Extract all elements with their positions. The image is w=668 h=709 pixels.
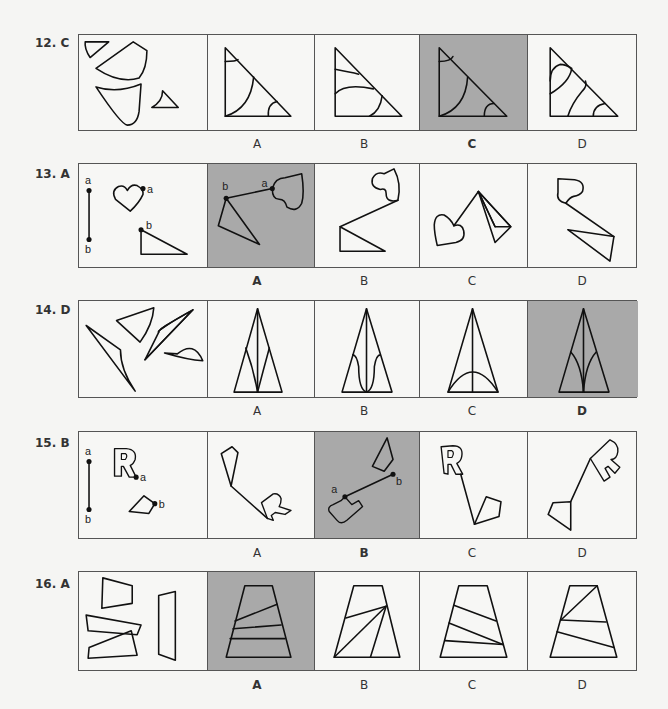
spike-triangle-figure [208,301,314,397]
q14-pieces-figure [79,301,207,397]
trapezoid-slices-figure [420,572,527,670]
question-number: 15. [35,436,56,450]
heart-triangle-figure [315,164,419,267]
point-label-b: b [396,475,402,487]
r-pentagon-figure: a b [315,432,419,538]
option-label-c: C [452,546,492,560]
q12-option-d[interactable] [527,35,638,130]
point-label-a: a [85,445,91,457]
q14-option-c[interactable] [419,301,527,397]
option-label-b: B [344,404,384,418]
question-14-row [78,300,637,398]
trapezoid-slices-figure [315,572,419,670]
question-number: 12. [35,36,56,50]
option-label-c: C [452,404,492,418]
question-number: 16. [35,577,56,591]
question-16-label: 16. A [35,577,70,591]
answer-key: A [60,577,69,591]
q13-option-a[interactable]: b a [207,164,314,267]
point-label-b: b [85,243,91,255]
q13-option-c[interactable] [419,164,527,267]
point-label-b: b [85,513,91,525]
question-15-label: 15. B [35,436,70,450]
q12-option-b[interactable] [314,35,419,130]
spike-triangle-figure [315,301,419,397]
triangle-arcs-figure [420,35,527,130]
option-label-d: D [562,137,602,151]
spike-triangle-figure [528,301,638,397]
point-label-a: a [140,471,146,483]
r-pentagon-figure [420,432,527,538]
q16-pieces-figure [79,572,207,670]
q12-option-a[interactable] [207,35,314,130]
option-label-b: B [344,678,384,692]
point-label-b: b [222,180,228,192]
point-label-a: a [85,174,91,186]
answer-key: D [60,303,70,317]
triangle-arcs-figure [315,35,419,130]
option-label-c: C [452,678,492,692]
q16-option-d[interactable] [527,572,638,670]
triangle-arcs-figure [208,35,314,130]
q15-option-b[interactable]: a b [314,432,419,538]
spike-triangle-figure [420,301,527,397]
option-label-b: B [344,137,384,151]
option-label-a-correct: A [237,678,277,692]
question-number: 13. [35,167,56,181]
question-13-row: a b a b b a [78,163,637,268]
point-label-a: a [261,177,267,189]
point-label-b: b [159,498,165,510]
option-label-d: D [562,274,602,288]
point-label-a: a [331,483,337,495]
q15-option-d[interactable] [527,432,638,538]
q15-pieces-figure: a b a b [79,432,207,538]
q16-option-a[interactable] [207,572,314,670]
question-15-row: a b a b a b [78,431,637,539]
option-label-d: D [562,678,602,692]
q14-option-b[interactable] [314,301,419,397]
option-label-a-correct: A [237,274,277,288]
option-label-c-correct: C [452,137,492,151]
r-pentagon-figure [528,432,638,538]
option-label-d-correct: D [562,404,602,418]
option-label-b-correct: B [344,546,384,560]
q13-pieces: a b a b [79,164,207,267]
question-number: 14. [35,303,56,317]
trapezoid-slices-figure [208,572,314,670]
q13-pieces-figure: a b a b [79,164,207,267]
heart-triangle-figure [420,164,527,267]
option-label-a: A [237,404,277,418]
q12-option-c[interactable] [419,35,527,130]
triangle-arcs-figure [528,35,638,130]
q15-option-a[interactable] [207,432,314,538]
q12-pieces [79,35,207,130]
question-12-label: 12. C [35,36,69,50]
r-pentagon-figure [208,432,314,538]
q15-option-c[interactable] [419,432,527,538]
answer-key: B [60,436,69,450]
option-label-b: B [344,274,384,288]
q16-option-b[interactable] [314,572,419,670]
heart-triangle-figure: b a [208,164,314,267]
q12-pieces-figure [79,35,207,130]
q14-option-d[interactable] [527,301,638,397]
question-12-row [78,34,637,131]
option-label-a: A [237,546,277,560]
answer-key: C [60,36,69,50]
q16-pieces [79,572,207,670]
question-13-label: 13. A [35,167,70,181]
q13-option-b[interactable] [314,164,419,267]
trapezoid-slices-figure [528,572,638,670]
heart-triangle-figure [528,164,638,267]
q15-pieces: a b a b [79,432,207,538]
q14-option-a[interactable] [207,301,314,397]
point-label-b: b [146,219,152,231]
question-14-label: 14. D [35,303,70,317]
question-16-row [78,571,637,671]
q13-option-d[interactable] [527,164,638,267]
answer-key: A [60,167,69,181]
option-label-a: A [237,137,277,151]
point-label-a: a [147,183,153,195]
q16-option-c[interactable] [419,572,527,670]
option-label-c: C [452,274,492,288]
